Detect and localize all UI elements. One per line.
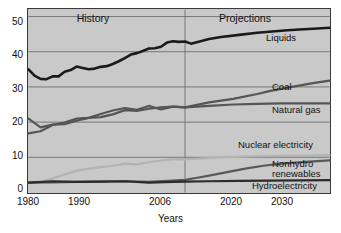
y-tick-20: 20 <box>1 116 23 127</box>
x-tick-2006: 2006 <box>139 196 181 207</box>
y-tick-10: 10 <box>1 150 23 161</box>
projections-band-label: Projections <box>159 12 331 24</box>
series-label-liquids: Liquids <box>266 33 296 44</box>
x-tick-2020: 2020 <box>210 196 252 207</box>
y-tick-30: 30 <box>1 83 23 94</box>
y-tick-50: 50 <box>1 16 23 27</box>
series-label-hydroelectricity: Hydroelectricity <box>252 181 317 192</box>
x-tick-1990: 1990 <box>58 196 100 207</box>
series-label-coal: Coal <box>272 82 292 93</box>
y-tick-40: 40 <box>1 49 23 60</box>
energy-consumption-line-chart: History Projections 0 10 20 30 40 50 198… <box>0 0 341 233</box>
history-band-label: History <box>27 12 159 24</box>
y-tick-0: 0 <box>1 183 23 194</box>
series-label-natural-gas: Natural gas <box>272 105 321 116</box>
x-tick-2030: 2030 <box>261 196 303 207</box>
series-label-renewables: renewables <box>272 169 321 180</box>
x-tick-1980: 1980 <box>7 196 49 207</box>
x-axis-title: Years <box>0 213 341 224</box>
series-label-nuclear-electricity: Nuclear electricity <box>238 140 313 151</box>
